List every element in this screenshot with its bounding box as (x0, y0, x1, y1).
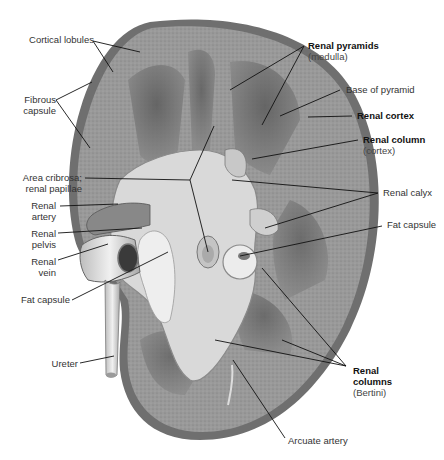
label-renal-column: Renal column (cortex) (363, 134, 425, 156)
label-text: columns (353, 376, 392, 387)
label-text: artery (0, 211, 56, 222)
label-text: Base of pyramid (346, 84, 415, 95)
label-fibrous-capsule: Fibrous capsule (0, 94, 56, 116)
label-text: Renal (0, 200, 56, 211)
label-text: Renal cortex (357, 110, 414, 121)
label-renal-columns: Renal columns (Bertini) (353, 365, 392, 398)
label-renal-pelvis: Renal pelvis (0, 228, 56, 250)
label-text: Fat capsule (387, 219, 436, 230)
label-text: Renal pyramids (308, 40, 379, 51)
label-text: Arcuate artery (288, 435, 348, 446)
label-renal-vein: Renal vein (0, 256, 56, 278)
label-cortical-lobules: Cortical lobules (14, 34, 94, 45)
label-text: capsule (0, 105, 56, 116)
label-renal-calyx: Renal calyx (383, 187, 432, 198)
label-base-of-pyramid: Base of pyramid (346, 84, 415, 95)
label-fat-capsule-left: Fat capsule (0, 294, 70, 305)
label-text: vein (0, 267, 56, 278)
label-text: renal papillae (0, 183, 82, 194)
label-text: Fat capsule (0, 294, 70, 305)
label-fat-capsule-right: Fat capsule (387, 219, 436, 230)
renal-vein-lumen (118, 244, 138, 272)
label-text: Renal (0, 256, 56, 267)
label-text: Renal column (363, 134, 425, 145)
label-text: Fibrous (0, 94, 56, 105)
label-subtext: (Bertini) (353, 387, 392, 398)
label-arcuate-artery: Arcuate artery (288, 435, 348, 446)
pyramid-2 (188, 50, 215, 150)
label-ureter: Ureter (20, 358, 78, 369)
label-renal-pyramids: Renal pyramids (medulla) (308, 40, 379, 62)
label-text: Renal (353, 365, 392, 376)
label-text: Renal (0, 228, 56, 239)
label-text: Area cribrosa; (0, 172, 82, 183)
label-text: Ureter (20, 358, 78, 369)
label-text: Cortical lobules (14, 34, 94, 45)
label-renal-cortex: Renal cortex (357, 110, 414, 121)
label-subtext: (cortex) (363, 145, 425, 156)
fat-capsule-lobule (223, 245, 257, 279)
kidney-diagram: Cortical lobules Fibrous capsule Area cr… (0, 0, 444, 460)
label-text: pelvis (0, 239, 56, 250)
ureter-shape (105, 280, 120, 377)
label-renal-artery: Renal artery (0, 200, 56, 222)
label-text: Renal calyx (383, 187, 432, 198)
label-area-cribrosa: Area cribrosa; renal papillae (0, 172, 82, 194)
label-subtext: (medulla) (308, 51, 379, 62)
